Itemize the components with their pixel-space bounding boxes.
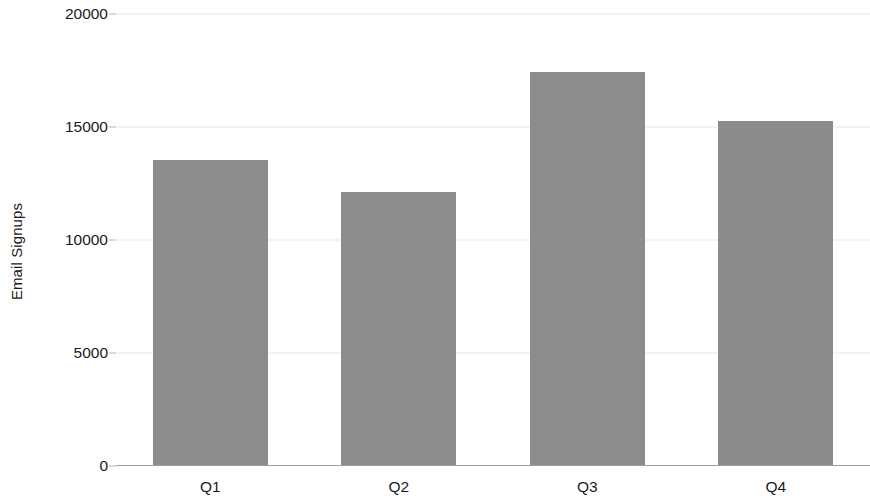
y-axis-tick-label: 15000: [30, 118, 108, 136]
y-axis-tick-mark: [109, 14, 116, 15]
x-axis-tick-label: Q4: [765, 478, 786, 496]
y-axis-title-text: Email Signups: [9, 202, 26, 299]
y-axis-tick-mark: [109, 466, 116, 467]
gridline: [116, 14, 870, 15]
bar: [718, 121, 833, 465]
plot-area: [116, 14, 870, 466]
y-axis-tick-label: 20000: [30, 5, 108, 23]
bar-chart: Email Signups 05000100001500020000 Q1Q2Q…: [0, 0, 870, 502]
y-axis-tick-label: 0: [30, 457, 108, 475]
y-axis-tick-label: 5000: [30, 344, 108, 362]
bar: [153, 160, 268, 465]
y-axis-tick-mark: [109, 353, 116, 354]
bar: [530, 72, 645, 465]
y-axis-title: Email Signups: [0, 0, 34, 502]
y-axis-tick-labels: 05000100001500020000: [30, 0, 108, 502]
y-axis-tick-mark: [109, 127, 116, 128]
bar: [341, 192, 456, 465]
x-axis-line: [116, 465, 870, 466]
y-axis-tick-mark: [109, 240, 116, 241]
x-axis-tick-label: Q3: [577, 478, 598, 496]
x-axis-tick-label: Q2: [388, 478, 409, 496]
y-axis-tick-label: 10000: [30, 231, 108, 249]
x-axis-tick-label: Q1: [200, 478, 221, 496]
